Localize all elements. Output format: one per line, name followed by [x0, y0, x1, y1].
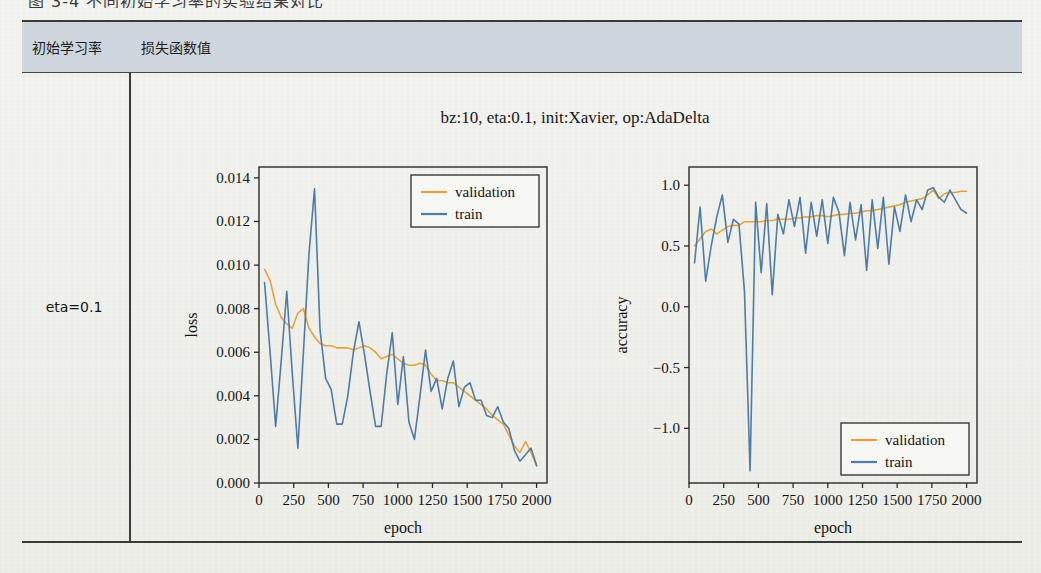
svg-text:2000: 2000: [522, 492, 552, 508]
svg-text:train: train: [455, 206, 483, 222]
svg-text:0.002: 0.002: [216, 431, 250, 447]
table-header-cell-learning-rate: 初始学习率: [22, 22, 126, 72]
svg-text:1250: 1250: [417, 492, 447, 508]
svg-text:1750: 1750: [487, 492, 517, 508]
svg-text:epoch: epoch: [814, 519, 852, 537]
svg-text:loss: loss: [183, 313, 200, 338]
figure-caption-partial: 图 3-4 不同初始学习率的实验结果对比: [28, 0, 548, 8]
table-bottom-rule: [22, 541, 1022, 543]
svg-text:0.014: 0.014: [216, 170, 250, 186]
svg-text:1250: 1250: [847, 492, 877, 508]
svg-text:train: train: [885, 454, 913, 470]
table-column-divider: [129, 22, 131, 541]
svg-text:2000: 2000: [952, 492, 982, 508]
results-table: 初始学习率 损失函数值 eta=0.1 bz:10, eta:0.1, init…: [22, 20, 1022, 548]
svg-text:0.012: 0.012: [216, 213, 250, 229]
table-header-row: 初始学习率 损失函数值: [22, 22, 1022, 72]
svg-text:0: 0: [255, 492, 263, 508]
svg-text:500: 500: [747, 492, 770, 508]
accuracy-chart-panel: 025050075010001250150017502000−1.0−0.50.…: [575, 73, 1005, 541]
svg-text:0.008: 0.008: [216, 301, 250, 317]
svg-text:epoch: epoch: [384, 519, 422, 537]
svg-text:0.000: 0.000: [216, 475, 250, 491]
svg-text:1500: 1500: [452, 492, 482, 508]
svg-text:500: 500: [317, 492, 340, 508]
loss-chart-svg: 0250500750100012501500175020000.0000.002…: [155, 73, 575, 541]
svg-text:750: 750: [782, 492, 805, 508]
table-row-label-eta: eta=0.1: [22, 73, 126, 541]
svg-text:750: 750: [352, 492, 375, 508]
svg-text:accuracy: accuracy: [613, 297, 631, 354]
svg-text:0.004: 0.004: [216, 388, 250, 404]
svg-text:0.006: 0.006: [216, 344, 250, 360]
accuracy-chart-svg: 025050075010001250150017502000−1.0−0.50.…: [575, 73, 1005, 541]
svg-text:0: 0: [685, 492, 693, 508]
svg-text:0.5: 0.5: [661, 238, 680, 254]
svg-text:1500: 1500: [882, 492, 912, 508]
svg-text:validation: validation: [885, 432, 945, 448]
svg-text:0.0: 0.0: [661, 299, 680, 315]
svg-text:1000: 1000: [383, 492, 413, 508]
loss-chart-panel: 0250500750100012501500175020000.0000.002…: [155, 73, 575, 541]
svg-text:−0.5: −0.5: [653, 360, 680, 376]
svg-text:1000: 1000: [813, 492, 843, 508]
svg-text:validation: validation: [455, 184, 515, 200]
table-header-cell-loss-value: 损失函数值: [135, 22, 1015, 72]
svg-text:0.010: 0.010: [216, 257, 250, 273]
svg-text:250: 250: [282, 492, 305, 508]
svg-text:1750: 1750: [917, 492, 947, 508]
svg-text:1.0: 1.0: [661, 177, 680, 193]
svg-text:250: 250: [712, 492, 735, 508]
figure-container: bz:10, eta:0.1, init:Xavier, op:AdaDelta…: [135, 73, 1015, 541]
svg-text:−1.0: −1.0: [653, 420, 680, 436]
